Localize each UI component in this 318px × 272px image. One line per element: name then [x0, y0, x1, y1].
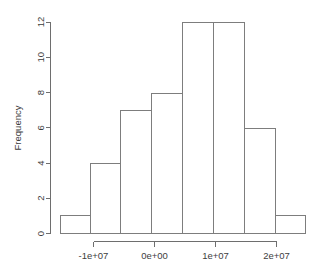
- y-tick-label: 2: [35, 196, 46, 201]
- histogram-plot: 0 2 4 6 8 10 12 Frequency -1e+07 0e+00 1…: [0, 0, 318, 272]
- histogram-canvas: 0 2 4 6 8 10 12 Frequency -1e+07 0e+00 1…: [0, 0, 318, 272]
- histogram-bar: [245, 129, 276, 234]
- y-tick-label: 4: [35, 160, 46, 165]
- x-tick-label: -1e+07: [79, 250, 109, 261]
- y-axis-title: Frequency: [12, 105, 23, 150]
- y-tick-label: 12: [35, 17, 46, 28]
- histogram-bar: [183, 23, 214, 234]
- histogram-bar: [121, 111, 152, 234]
- bar-series: [61, 23, 306, 234]
- y-tick-label: 6: [35, 125, 46, 130]
- y-tick-labels: 0 2 4 6 8 10 12: [35, 17, 46, 236]
- y-tick-label: 8: [35, 90, 46, 95]
- y-tick-label: 0: [35, 231, 46, 236]
- y-tick-label: 10: [35, 52, 46, 63]
- histogram-bar: [61, 216, 91, 234]
- histogram-bar: [91, 164, 121, 234]
- histogram-bar: [214, 23, 245, 234]
- y-axis: [46, 22, 51, 234]
- histogram-bar: [152, 94, 183, 234]
- x-tick-label: 2e+07: [263, 250, 290, 261]
- x-axis: [94, 242, 277, 247]
- x-tick-labels: -1e+07 0e+00 1e+07 2e+07: [79, 250, 290, 261]
- histogram-bar: [276, 216, 306, 234]
- x-tick-label: 1e+07: [202, 250, 229, 261]
- x-tick-label: 0e+00: [141, 250, 168, 261]
